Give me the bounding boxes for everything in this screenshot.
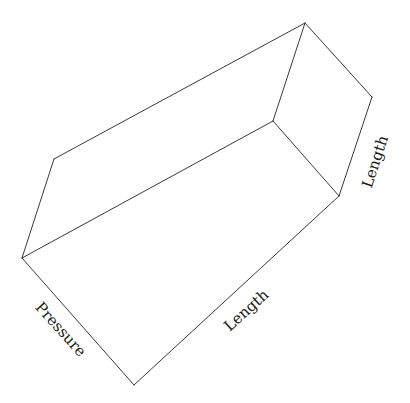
edge-EF [22,121,273,258]
pressure-label: Pressure [32,298,90,360]
edge-ED [273,121,339,196]
edge-AB [54,23,305,159]
edge-BC [305,23,372,97]
edge-GD [134,196,339,385]
edge-FG [22,258,134,385]
box-diagram: Pressure Length Length [0,0,410,403]
length-front-label: Length [220,285,272,335]
length-side-label: Length [358,133,392,190]
